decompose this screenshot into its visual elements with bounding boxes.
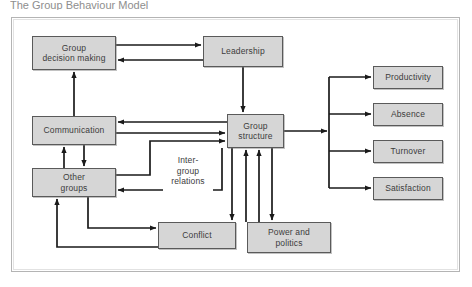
node-label: Leadership <box>219 46 267 57</box>
label-inter-group-relations: Inter- group relations <box>163 155 213 191</box>
node-label: Power and politics <box>266 227 312 248</box>
node-label: Communication <box>41 125 106 136</box>
node-label: Satisfaction <box>383 183 433 194</box>
node-turnover[interactable]: Turnover <box>373 140 443 163</box>
node-label: Group structure <box>236 121 274 142</box>
node-leadership[interactable]: Leadership <box>203 36 283 67</box>
node-label: Turnover <box>389 146 428 157</box>
node-label: Absence <box>389 109 427 120</box>
node-power-and-politics[interactable]: Power and politics <box>247 222 331 253</box>
node-label: Productivity <box>383 72 433 83</box>
node-satisfaction[interactable]: Satisfaction <box>373 177 443 200</box>
node-group-decision-making[interactable]: Group decision making <box>32 36 116 70</box>
node-communication[interactable]: Communication <box>32 116 116 145</box>
node-productivity[interactable]: Productivity <box>373 66 443 89</box>
node-label: Group decision making <box>40 43 107 64</box>
node-other-groups[interactable]: Other groups <box>32 168 116 197</box>
node-label: Other groups <box>59 172 90 193</box>
node-group-structure[interactable]: Group structure <box>227 114 284 148</box>
group-behaviour-diagram: The Group Behaviour Model <box>0 0 472 287</box>
node-label: Conflict <box>180 230 214 241</box>
node-absence[interactable]: Absence <box>373 103 443 126</box>
node-conflict[interactable]: Conflict <box>158 222 236 249</box>
